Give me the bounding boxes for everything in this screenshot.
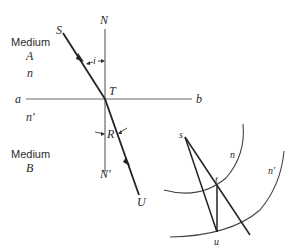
label-index-n: n: [27, 66, 33, 80]
label-t: t: [215, 174, 218, 185]
label-T: T: [109, 84, 117, 98]
arc-n-prime: [170, 151, 284, 237]
label-b: b: [196, 92, 202, 106]
label-arc-n-prime: n': [268, 165, 276, 176]
angle-i-arrowhead-left-icon: [86, 61, 90, 65]
angle-r-arrowhead-right-icon: [118, 130, 122, 134]
label-a: a: [15, 92, 21, 106]
label-N: N: [99, 13, 109, 27]
incident-ray: [63, 33, 105, 99]
label-index-n-prime: n': [26, 110, 35, 124]
label-medium-a-letter: A: [25, 49, 34, 63]
label-S: S: [56, 23, 62, 37]
label-N-prime: N': [99, 167, 111, 181]
refraction-diagram: Medium A n a n' Medium B N S i T b R N' …: [0, 0, 299, 252]
refracted-arrow-icon: [123, 157, 130, 166]
label-u: u: [214, 236, 219, 247]
label-U: U: [137, 195, 147, 209]
label-medium-b-letter: B: [26, 161, 34, 175]
construction-panel: s n t n' u: [164, 124, 284, 247]
label-s: s: [179, 129, 183, 140]
refraction-panel: Medium A n a n' Medium B N S i T b R N' …: [11, 13, 202, 209]
label-R: R: [106, 127, 115, 141]
label-arc-n: n: [230, 149, 235, 160]
label-i: i: [93, 55, 96, 66]
label-medium-a-title: Medium: [11, 36, 50, 48]
label-medium-b-title: Medium: [11, 148, 50, 160]
line-s-u: [185, 137, 217, 232]
